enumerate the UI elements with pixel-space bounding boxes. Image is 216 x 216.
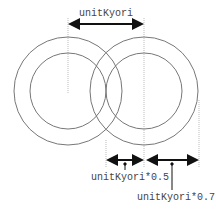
diagram-canvas: unitKyori unitKyori*0.5 unitKyori*0.7 <box>0 0 216 216</box>
circles <box>14 37 198 145</box>
outer-leader-dot <box>171 163 173 165</box>
inner-leader-dot <box>124 163 126 165</box>
inner-radius-label: unitKyori*0.5 <box>91 172 169 183</box>
outer-radius-label: unitKyori*0.7 <box>137 192 215 203</box>
top-distance-label: unitKyori <box>79 8 133 19</box>
dimension-arrows <box>70 24 197 160</box>
